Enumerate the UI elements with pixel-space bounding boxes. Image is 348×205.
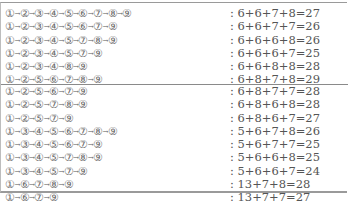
path-node: ⑦	[78, 125, 87, 138]
path-node: ④	[49, 34, 58, 47]
path-node: ②	[20, 47, 29, 60]
path-node: ⑧	[64, 60, 73, 73]
path-node: ①	[5, 7, 14, 20]
table-section-1: ①→②→③→④→⑤→⑥→⑦→⑧→⑨: 6+6+7+8=27①→②→③→④→⑤→⑥…	[1, 7, 348, 87]
path-sequence: ①→⑥→⑦→⑧→⑨	[5, 178, 73, 192]
path-node: ②	[20, 34, 29, 47]
path-sum: : 6+8+7+7=28	[230, 85, 320, 98]
path-node: ③	[34, 34, 43, 47]
table-row: ①→⑥→⑦→⑨: 13+7+7=27	[1, 191, 348, 204]
path-node: ①	[5, 20, 14, 33]
table-row: ①→②→③→④→⑧→⑨: 6+6+8+8=28	[1, 60, 348, 73]
table-row: ①→③→④→⑤→⑦→⑧→⑨: 5+6+6+8=25	[1, 151, 348, 164]
path-node: ⑦	[78, 34, 87, 47]
path-node: ⑦	[93, 20, 102, 33]
table-row: ①→②→⑤→⑦→⑧→⑨: 6+8+6+8=28	[1, 98, 348, 111]
path-sequence: ①→②→⑤→⑦→⑨	[5, 112, 73, 126]
path-node: ③	[20, 165, 29, 178]
table-row: ①→③→④→⑤→⑥→⑦→⑧→⑨: 5+6+7+8=26	[1, 125, 348, 138]
path-node: ②	[20, 60, 29, 73]
path-node: ⑨	[93, 138, 102, 151]
table-section-2: ①→②→⑤→⑥→⑦→⑨: 6+8+7+7=28①→②→⑤→⑦→⑧→⑨: 6+8+…	[1, 85, 348, 205]
path-sequence: ①→③→④→⑤→⑦→⑨	[5, 165, 88, 179]
path-node: ⑤	[64, 47, 73, 60]
path-node: ⑤	[49, 138, 58, 151]
path-node: ⑦	[34, 178, 43, 191]
path-node: ⑧	[108, 7, 117, 20]
path-node: ①	[5, 191, 14, 204]
path-node: ⑤	[49, 125, 58, 138]
path-node: ⑨	[93, 151, 102, 164]
path-sequence: ①→②→③→④→⑤→⑦→⑧→⑨	[5, 34, 117, 48]
table-row: ①→②→③→④→⑤→⑦→⑨: 6+6+6+7=25	[1, 47, 348, 60]
path-node: ⑧	[49, 178, 58, 191]
path-node: ⑦	[93, 7, 102, 20]
path-node: ⑨	[108, 34, 117, 47]
path-node: ⑦	[78, 47, 87, 60]
path-sequence: ①→③→④→⑤→⑦→⑧→⑨	[5, 151, 102, 165]
path-node: ②	[20, 85, 29, 98]
path-node: ⑤	[34, 85, 43, 98]
path-node: ③	[20, 151, 29, 164]
path-node: ①	[5, 151, 14, 164]
path-node: ⑥	[49, 85, 58, 98]
path-node: ①	[5, 138, 14, 151]
path-sum: : 6+6+6+8=26	[230, 34, 320, 47]
path-node: ⑨	[108, 125, 117, 138]
path-sum: : 6+8+6+7=27	[230, 112, 320, 125]
path-sum: : 5+6+6+8=25	[230, 151, 320, 164]
path-node: ⑦	[78, 138, 87, 151]
path-node: ⑦	[64, 151, 73, 164]
path-sequence: ①→②→③→④→⑤→⑥→⑦→⑨	[5, 20, 117, 34]
path-sum: : 6+6+7+7=26	[230, 20, 320, 33]
path-node: ①	[5, 85, 14, 98]
path-sum: : 6+6+8+8=28	[230, 60, 320, 73]
table-row: ①→⑥→⑦→⑧→⑨: 13+7+8=28	[1, 178, 348, 191]
path-node: ⑤	[34, 98, 43, 111]
path-sum: : 5+6+7+7=25	[230, 138, 320, 151]
path-node: ③	[20, 138, 29, 151]
table-row: ①→②→⑤→⑥→⑦→⑨: 6+8+7+7=28	[1, 85, 348, 98]
path-node: ⑥	[78, 20, 87, 33]
path-sum: : 5+6+7+8=26	[230, 125, 320, 138]
path-node: ③	[34, 20, 43, 33]
path-node: ⑧	[64, 98, 73, 111]
table-row: ①→②→③→④→⑤→⑦→⑧→⑨: 6+6+6+8=26	[1, 34, 348, 47]
path-node: ⑨	[78, 85, 87, 98]
path-node: ①	[5, 98, 14, 111]
path-node: ⑨	[49, 191, 58, 204]
path-sequence: ①→②→③→④→⑧→⑨	[5, 60, 88, 74]
path-node: ④	[34, 138, 43, 151]
path-node: ④	[34, 125, 43, 138]
path-node: ①	[5, 125, 14, 138]
path-sequence: ①→③→④→⑤→⑥→⑦→⑧→⑨	[5, 125, 117, 139]
table-row: ①→③→④→⑤→⑥→⑦→⑨: 5+6+7+7=25	[1, 138, 348, 151]
path-sum: : 13+7+8=28	[230, 178, 310, 191]
path-node: ⑥	[64, 138, 73, 151]
path-node: ⑤	[64, 34, 73, 47]
path-node: ⑥	[20, 191, 29, 204]
path-node: ⑧	[78, 151, 87, 164]
path-node: ④	[49, 7, 58, 20]
path-sum: : 6+6+6+7=25	[230, 47, 320, 60]
path-sum: : 5+6+6+7=24	[230, 165, 320, 178]
table-row: ①→②→③→④→⑤→⑥→⑦→⑨: 6+6+7+7=26	[1, 20, 348, 33]
path-node: ③	[20, 125, 29, 138]
path-node: ⑤	[64, 7, 73, 20]
path-node: ④	[49, 60, 58, 73]
path-node: ⑦	[34, 191, 43, 204]
path-node: ②	[20, 20, 29, 33]
path-node: ②	[20, 98, 29, 111]
path-node: ⑦	[64, 85, 73, 98]
path-node: ④	[49, 20, 58, 33]
path-node: ⑧	[93, 34, 102, 47]
path-sum: : 13+7+7=27	[230, 191, 310, 204]
table-row: ①→②→③→④→⑤→⑥→⑦→⑧→⑨: 6+6+7+8=27	[1, 7, 348, 20]
path-node: ①	[5, 34, 14, 47]
path-node: ⑦	[64, 165, 73, 178]
table-row: ①→②→⑤→⑦→⑨: 6+8+6+7=27	[1, 112, 348, 125]
path-node: ⑥	[64, 125, 73, 138]
path-node: ④	[34, 165, 43, 178]
path-sequence: ①→②→⑤→⑥→⑦→⑨	[5, 85, 88, 99]
path-node: ⑨	[108, 20, 117, 33]
